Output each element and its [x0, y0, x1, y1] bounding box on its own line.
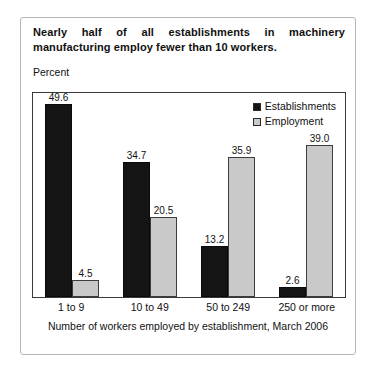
bar-groups: 49.64.534.720.513.235.92.639.0 [33, 93, 345, 297]
bar-value-label: 49.6 [49, 92, 68, 103]
bar-establishments[interactable] [279, 287, 306, 297]
y-axis-label: Percent [33, 66, 69, 78]
x-tick-label: 50 to 249 [189, 301, 268, 313]
bar-employment[interactable] [228, 157, 255, 297]
bar-group: 34.720.5 [111, 93, 189, 297]
bar-employment[interactable] [150, 217, 177, 297]
bar-group: 13.235.9 [189, 93, 267, 297]
bar-value-label: 2.6 [286, 275, 300, 286]
chart-card: Nearly half of all establishments in mac… [20, 17, 356, 355]
bar-value-label: 39.0 [310, 133, 329, 144]
bar-value-label: 20.5 [154, 205, 173, 216]
x-tick-label: 250 or more [268, 301, 347, 313]
bar-wrapper: 2.6 [279, 287, 306, 297]
bar-employment[interactable] [72, 280, 99, 297]
bar-wrapper: 39.0 [306, 145, 333, 297]
bar-wrapper: 35.9 [228, 157, 255, 297]
bar-value-label: 13.2 [205, 234, 224, 245]
bar-wrapper: 49.6 [45, 104, 72, 297]
x-tick-label: 1 to 9 [32, 301, 111, 313]
chart-title: Nearly half of all establishments in mac… [33, 25, 345, 54]
bar-wrapper: 4.5 [72, 280, 99, 297]
plot-area: Establishments Employment 49.64.534.720.… [32, 92, 346, 298]
x-tick-label: 10 to 49 [111, 301, 190, 313]
bar-establishments[interactable] [45, 104, 72, 297]
bar-employment[interactable] [306, 145, 333, 297]
bar-group: 2.639.0 [267, 93, 345, 297]
chart-title-line-1: Nearly half of all establishments in mac… [33, 25, 345, 40]
bar-wrapper: 20.5 [150, 217, 177, 297]
x-axis-tick-labels: 1 to 910 to 4950 to 249250 or more [32, 301, 346, 313]
bar-wrapper: 13.2 [201, 246, 228, 297]
bar-establishments[interactable] [201, 246, 228, 297]
bar-establishments[interactable] [123, 162, 150, 297]
bar-value-label: 35.9 [232, 145, 251, 156]
bar-wrapper: 34.7 [123, 162, 150, 297]
chart-title-line-2: manufacturing employ fewer than 10 worke… [33, 40, 345, 55]
bar-value-label: 4.5 [79, 268, 93, 279]
chart-screenshot: Nearly half of all establishments in mac… [0, 0, 377, 377]
bar-value-label: 34.7 [127, 150, 146, 161]
x-axis-caption: Number of workers employed by establishm… [21, 320, 355, 332]
bar-group: 49.64.5 [33, 93, 111, 297]
